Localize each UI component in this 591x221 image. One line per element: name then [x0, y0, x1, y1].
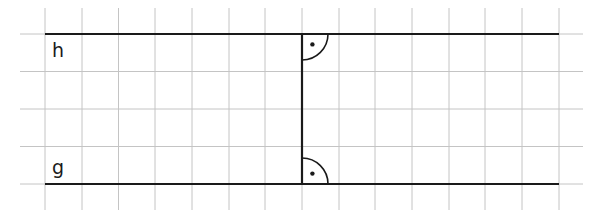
right-angle-dot-icon — [310, 171, 314, 175]
right-angle-dot-icon — [310, 42, 314, 46]
label-h: h — [52, 39, 64, 61]
right-angle-marker-bottom — [302, 158, 328, 184]
right-angle-marker-top — [302, 34, 328, 60]
parallel-lines-diagram: h g — [0, 0, 591, 221]
label-g: g — [52, 156, 64, 178]
